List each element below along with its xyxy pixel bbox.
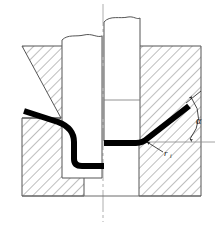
technical-drawing-figure: α r i [0,0,223,235]
bend-radius-label: r [164,148,168,158]
right-punch [104,17,140,141]
figure-caption [0,219,223,235]
bend-angle-label: α [196,115,202,126]
left-punch [62,35,102,178]
bending-die-diagram: α r i [0,0,223,235]
